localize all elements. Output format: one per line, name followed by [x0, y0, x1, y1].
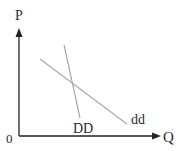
curve-dd-label: dd	[131, 112, 145, 127]
curve-dd	[40, 59, 127, 124]
origin-label: 0	[6, 131, 13, 146]
y-axis-label: P	[15, 8, 23, 23]
curve-DD	[64, 45, 80, 118]
x-axis-label: Q	[163, 129, 174, 145]
curve-DD-label: DD	[73, 121, 93, 136]
demand-diagram: P Q 0 DD dd	[0, 0, 176, 151]
x-axis-arrow-icon	[152, 133, 161, 140]
y-axis-arrow-icon	[16, 28, 23, 37]
